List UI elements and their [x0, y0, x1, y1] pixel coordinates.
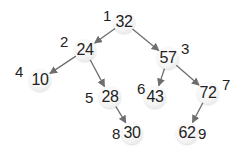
node-index-label: 1: [103, 7, 111, 24]
tree-node-30: 30: [121, 122, 143, 144]
edge-72-62: [193, 103, 203, 123]
tree-node-10: 10: [29, 69, 51, 91]
edge-28-30: [116, 106, 126, 122]
edge-24-10: [50, 56, 76, 73]
node-index-label: 5: [85, 89, 93, 106]
node-index-label: 3: [181, 40, 189, 57]
edge-32-57: [133, 29, 159, 50]
node-index-label: 8: [112, 125, 120, 142]
edge-24-28: [90, 60, 104, 87]
node-index-label: 6: [137, 80, 145, 97]
tree-node-28: 28: [99, 86, 121, 108]
edge-57-43: [159, 68, 165, 85]
node-index-label: 7: [222, 76, 230, 93]
node-index-label: 9: [198, 125, 206, 142]
tree-node-57: 57: [157, 47, 179, 69]
tree-node-43: 43: [144, 86, 166, 108]
edge-32-24: [95, 28, 115, 43]
tree-node-24: 24: [74, 39, 96, 61]
node-index-label: 2: [60, 33, 68, 50]
node-index-label: 4: [15, 63, 23, 80]
tree-node-32: 32: [113, 11, 135, 33]
tree-node-62: 62: [176, 122, 198, 144]
tree-node-72: 72: [197, 82, 219, 104]
edge-57-72: [176, 65, 199, 85]
